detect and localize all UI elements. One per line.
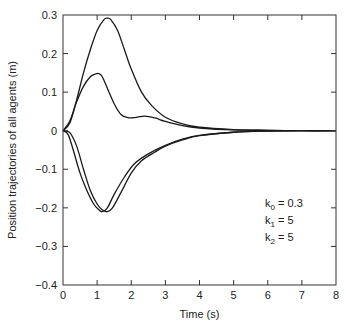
x-tick-label: 2 xyxy=(128,289,134,301)
y-tick-label: 0.2 xyxy=(42,48,57,60)
y-tick-label: 0.3 xyxy=(42,9,57,21)
x-tick-label: 6 xyxy=(265,289,271,301)
series-line-1 xyxy=(63,18,336,131)
data-series-group xyxy=(63,18,336,212)
gain-annotation: k1 = 5 xyxy=(265,214,294,229)
y-tick-label: 0.1 xyxy=(42,86,57,98)
parameter-annotations: k0 = 0.3k1 = 5k2 = 5 xyxy=(265,197,303,246)
x-axis: 012345678 xyxy=(60,15,339,301)
x-tick-label: 4 xyxy=(196,289,202,301)
y-tick-label: −0.1 xyxy=(35,163,57,175)
y-axis: 0.30.20.10−0.1−0.2−0.3−0.4 xyxy=(35,9,336,291)
x-tick-label: 8 xyxy=(333,289,339,301)
y-tick-label: −0.2 xyxy=(35,202,57,214)
y-tick-label: −0.3 xyxy=(35,240,57,252)
y-axis-label: Position trajectories of all agents (m) xyxy=(6,61,18,239)
series-line-2 xyxy=(63,73,336,130)
y-tick-label: −0.4 xyxy=(35,279,57,291)
plot-frame xyxy=(63,15,336,285)
x-tick-label: 7 xyxy=(299,289,305,301)
y-tick-label: 0 xyxy=(51,125,57,137)
x-tick-label: 3 xyxy=(162,289,168,301)
gain-annotation: k2 = 5 xyxy=(265,231,294,246)
line-chart: 012345678 0.30.20.10−0.1−0.2−0.3−0.4 Tim… xyxy=(0,0,346,329)
x-tick-label: 5 xyxy=(231,289,237,301)
x-axis-label: Time (s) xyxy=(180,308,220,320)
x-tick-label: 1 xyxy=(94,289,100,301)
gain-annotation: k0 = 0.3 xyxy=(265,197,303,212)
x-tick-label: 0 xyxy=(60,289,66,301)
